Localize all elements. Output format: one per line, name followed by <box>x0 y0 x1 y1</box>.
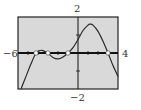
zero-marker <box>46 51 50 55</box>
zero-marker <box>106 51 110 55</box>
y-max-label: 2 <box>74 4 80 14</box>
x-min-label: −6 <box>3 49 18 59</box>
zero-marker <box>34 51 38 55</box>
y-min-label: −2 <box>70 93 85 103</box>
x-max-label: 4 <box>122 49 128 59</box>
zero-marker <box>66 51 70 55</box>
